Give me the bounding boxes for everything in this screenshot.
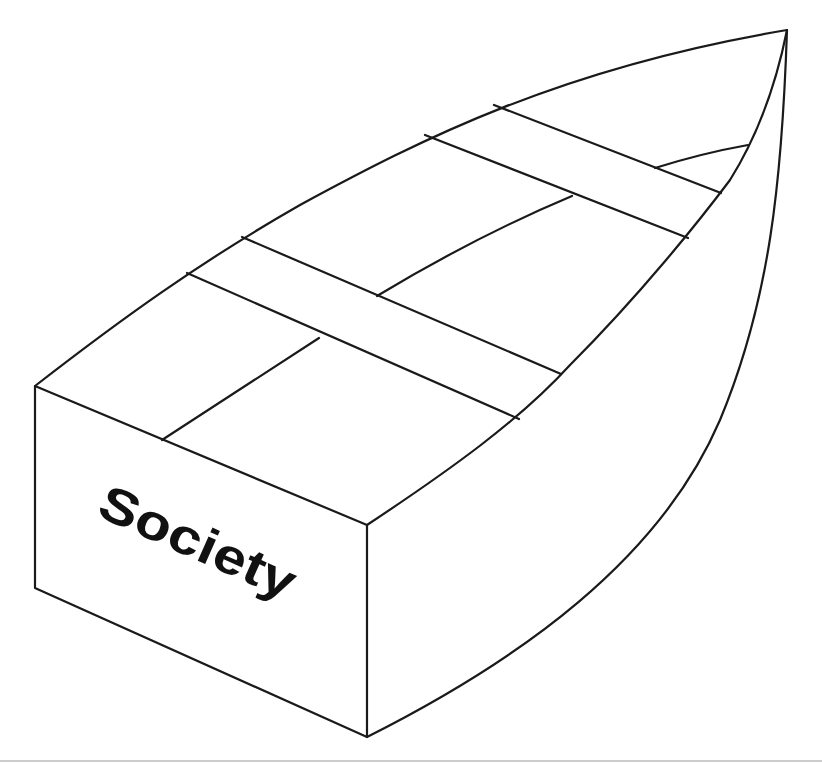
keel-segment-3 [655, 145, 748, 168]
outer-gunwale [35, 30, 787, 386]
seat-4 [494, 105, 721, 193]
seat-1 [187, 273, 519, 419]
keel-segment-2 [377, 196, 572, 296]
keel-line [162, 145, 748, 440]
keel-segment-1 [162, 338, 319, 440]
seat-3 [425, 135, 688, 238]
seat-2 [242, 237, 561, 374]
stern-label: Society [91, 474, 306, 611]
boat-diagram: Society [0, 0, 822, 766]
inner-gunwale [367, 30, 787, 525]
